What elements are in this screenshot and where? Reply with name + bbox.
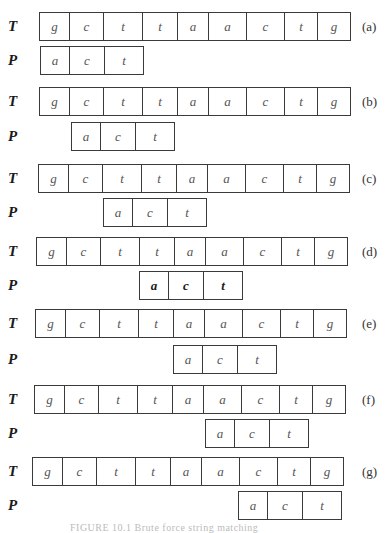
text-strip-cell: c [70, 13, 104, 40]
text-strip-cell: g [39, 165, 69, 192]
text-strip-cell: t [280, 386, 313, 413]
pattern-strip-cell: t [168, 199, 206, 226]
pattern-strip-cell: t [105, 47, 143, 74]
text-strip-cell: t [139, 310, 174, 337]
text-strip-cell: a [205, 310, 243, 337]
text-strip-cell: c [67, 238, 101, 265]
text-strip: gcttaactg [39, 87, 351, 116]
pattern-strip: act [205, 419, 309, 448]
text-strip-cell: c [63, 458, 97, 485]
text-strip-cell: t [104, 88, 143, 115]
text-strip-cell: t [104, 13, 143, 40]
pattern-strip-cell: a [72, 123, 101, 150]
text-strip-cell: g [317, 165, 349, 192]
pattern-strip-cell: t [204, 272, 242, 299]
text-strip-cell: a [202, 458, 240, 485]
text-strip-cell: c [69, 165, 103, 192]
pattern-strip-cell: a [140, 272, 169, 299]
text-strip-cell: c [66, 310, 100, 337]
step-label: (g) [362, 465, 377, 478]
text-strip-cell: t [285, 13, 318, 40]
text-strip-cell: c [70, 88, 104, 115]
text-strip: gcttaactg [38, 164, 350, 193]
text-strip-cell: g [311, 458, 343, 485]
text-strip: gcttaactg [36, 237, 348, 266]
pattern-row-label: P [8, 498, 17, 513]
text-strip-cell: g [314, 310, 346, 337]
pattern-strip-cell: c [268, 492, 303, 519]
text-row-label: T [8, 19, 17, 34]
text-strip-cell: g [313, 386, 345, 413]
text-strip-cell: a [206, 238, 244, 265]
text-strip-cell: a [177, 165, 208, 192]
text-strip-cell: t [285, 88, 318, 115]
step-label: (e) [362, 317, 376, 330]
pattern-strip-cell: t [238, 346, 276, 373]
text-strip-cell: t [100, 310, 139, 337]
step-label: (b) [362, 95, 377, 108]
text-strip-cell: t [140, 238, 175, 265]
text-row-label: T [8, 316, 17, 331]
pattern-strip-cell: c [70, 47, 105, 74]
text-strip-cell: t [136, 458, 171, 485]
text-strip-cell: a [175, 238, 206, 265]
text-strip: gcttaactg [32, 457, 344, 486]
text-strip-cell: c [242, 386, 280, 413]
pattern-strip-cell: a [174, 346, 203, 373]
pattern-strip-cell: c [101, 123, 136, 150]
text-strip-cell: t [143, 88, 178, 115]
pattern-row-label: P [8, 352, 17, 367]
text-strip-cell: a [178, 88, 209, 115]
pattern-row-label: P [8, 205, 17, 220]
text-strip-cell: t [282, 238, 315, 265]
pattern-row-label: P [8, 129, 17, 144]
pattern-row-label: P [8, 278, 17, 293]
text-strip-cell: c [246, 165, 284, 192]
text-strip-cell: a [171, 458, 202, 485]
text-row-label: T [8, 171, 17, 186]
text-strip-cell: a [209, 88, 247, 115]
text-strip-cell: g [36, 310, 66, 337]
figure-caption: FIGURE 10.1 Brute force string matching [70, 522, 258, 533]
text-strip-cell: g [318, 88, 350, 115]
text-strip-cell: t [284, 165, 317, 192]
text-strip-cell: g [40, 88, 70, 115]
text-strip-cell: t [138, 386, 173, 413]
pattern-row-label: P [8, 53, 17, 68]
pattern-strip-cell: a [239, 492, 268, 519]
pattern-strip-cell: a [41, 47, 70, 74]
text-strip-cell: g [33, 458, 63, 485]
pattern-strip: act [71, 122, 175, 151]
pattern-strip-cell: a [104, 199, 133, 226]
step-label: (c) [362, 172, 376, 185]
pattern-strip: act [103, 198, 207, 227]
text-strip: gcttaactg [35, 309, 347, 338]
text-row-label: T [8, 464, 17, 479]
pattern-strip-cell: c [133, 199, 168, 226]
text-strip-cell: c [247, 88, 285, 115]
pattern-strip-cell: a [206, 420, 235, 447]
text-strip-cell: c [243, 310, 281, 337]
pattern-row-label: P [8, 426, 17, 441]
text-strip-cell: t [103, 165, 142, 192]
text-strip-cell: a [209, 13, 247, 40]
pattern-strip: act [40, 46, 144, 75]
text-strip-cell: t [143, 13, 178, 40]
text-strip-cell: t [101, 238, 140, 265]
step-label: (d) [362, 245, 377, 258]
text-row-label: T [8, 244, 17, 259]
text-strip-cell: t [278, 458, 311, 485]
text-row-label: T [8, 392, 17, 407]
pattern-strip: act [173, 345, 277, 374]
text-strip-cell: a [204, 386, 242, 413]
text-strip-cell: c [244, 238, 282, 265]
step-label: (f) [362, 393, 375, 406]
text-strip-cell: g [37, 238, 67, 265]
text-strip: gcttaactg [39, 12, 351, 41]
text-strip-cell: g [35, 386, 65, 413]
text-strip-cell: a [208, 165, 246, 192]
pattern-strip-cell: t [136, 123, 174, 150]
pattern-strip-cell: c [203, 346, 238, 373]
text-strip-cell: g [318, 13, 350, 40]
text-strip-cell: a [178, 13, 209, 40]
